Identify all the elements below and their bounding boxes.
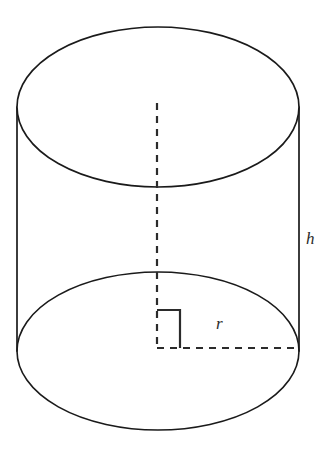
cylinder-figure-svg	[0, 0, 326, 452]
radius-label: r	[216, 315, 223, 332]
cylinder-diagram: h r	[0, 0, 326, 452]
height-label: h	[306, 230, 315, 247]
